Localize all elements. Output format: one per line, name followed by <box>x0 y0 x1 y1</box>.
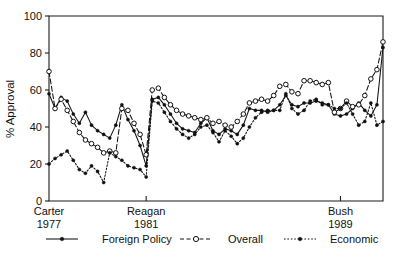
data-point-open <box>265 99 270 104</box>
data-point-filled <box>84 111 87 114</box>
data-point-filled <box>102 133 105 136</box>
data-point-filled <box>54 157 57 160</box>
data-point-open <box>174 108 179 113</box>
data-point-filled <box>199 125 202 128</box>
data-point-filled <box>114 124 117 127</box>
data-point-open <box>65 108 70 113</box>
data-point-filled <box>309 100 312 103</box>
data-point-filled <box>321 103 324 106</box>
data-point-filled <box>90 124 93 127</box>
data-point-open <box>132 121 137 126</box>
data-point-filled <box>47 162 50 165</box>
data-point-filled <box>78 168 81 171</box>
data-point-open <box>277 84 282 89</box>
data-point-open <box>150 88 155 93</box>
data-point-open <box>320 82 325 87</box>
data-point-filled <box>157 96 160 99</box>
data-point-filled <box>357 124 360 127</box>
data-point-filled <box>375 124 378 127</box>
series-line <box>49 42 383 155</box>
y-tick-label: 40 <box>30 121 42 133</box>
data-point-filled <box>217 133 220 136</box>
data-point-open <box>71 119 76 124</box>
data-point-filled <box>236 133 239 136</box>
data-point-open <box>126 108 131 113</box>
data-point-filled <box>296 105 299 108</box>
data-point-open <box>162 95 167 100</box>
data-point-filled <box>108 137 111 140</box>
data-point-filled <box>187 137 190 140</box>
data-point-filled <box>169 113 172 116</box>
data-point-filled <box>248 107 251 110</box>
data-point-open <box>120 106 125 111</box>
data-point-open <box>217 119 222 124</box>
data-point-filled <box>114 155 117 158</box>
x-era-label: Bush <box>328 205 353 217</box>
data-point-filled <box>163 103 166 106</box>
data-point-open <box>381 40 386 45</box>
data-point-filled <box>272 109 275 112</box>
data-point-open <box>89 141 94 146</box>
y-tick-label: 80 <box>30 47 42 59</box>
data-point-open <box>350 104 355 109</box>
y-tick-label: 20 <box>30 158 42 170</box>
data-point-open <box>47 69 52 74</box>
data-point-filled <box>369 101 372 104</box>
x-era-label: Carter <box>34 205 65 217</box>
data-point-filled <box>242 124 245 127</box>
data-point-filled <box>175 127 178 130</box>
data-point-open <box>290 90 295 95</box>
legend-label-overall: Overall <box>228 233 263 245</box>
data-point-filled <box>205 124 208 127</box>
y-axis-title: % Approval <box>4 80 16 138</box>
data-point-filled <box>132 166 135 169</box>
data-point-open <box>53 106 58 111</box>
data-point-filled <box>72 113 75 116</box>
data-point-filled <box>278 109 281 112</box>
data-point-filled <box>157 101 160 104</box>
y-tick-label: 100 <box>24 10 42 22</box>
data-point-filled <box>132 129 135 132</box>
data-point-filled <box>169 120 172 123</box>
data-point-filled <box>60 153 63 156</box>
data-point-filled <box>375 103 378 106</box>
data-point-filled <box>290 107 293 110</box>
data-point-filled <box>351 113 354 116</box>
data-point-open <box>241 112 246 117</box>
data-point-filled <box>90 164 93 167</box>
data-point-open <box>223 123 228 128</box>
data-point-filled <box>369 114 372 117</box>
x-era-year: 1981 <box>134 218 158 230</box>
x-era-label: Reagan <box>127 205 166 217</box>
data-point-filled <box>345 101 348 104</box>
data-point-filled <box>163 111 166 114</box>
data-point-open <box>362 93 367 98</box>
data-point-open <box>59 97 64 102</box>
x-era-year: 1989 <box>328 218 352 230</box>
data-point-filled <box>66 150 69 153</box>
data-point-filled <box>78 122 81 125</box>
data-point-open <box>375 67 380 72</box>
data-point-filled <box>296 113 299 116</box>
data-point-open <box>308 78 313 83</box>
data-point-filled <box>151 100 154 103</box>
data-point-filled <box>47 92 50 95</box>
data-point-open <box>229 125 234 130</box>
data-point-filled <box>254 109 257 112</box>
data-point-open <box>235 119 240 124</box>
series-overall <box>47 40 386 157</box>
series-line <box>49 94 383 183</box>
data-point-open <box>356 103 361 108</box>
data-point-open <box>247 101 252 106</box>
data-point-filled <box>266 109 269 112</box>
data-point-filled <box>126 118 129 121</box>
data-point-filled <box>224 129 227 132</box>
series-economic <box>47 92 384 184</box>
data-point-open <box>199 117 204 122</box>
data-point-open <box>192 115 197 120</box>
legend-swatch-marker <box>298 237 302 241</box>
data-point-open <box>83 138 88 143</box>
data-point-open <box>271 93 276 98</box>
data-point-open <box>95 145 100 150</box>
data-point-filled <box>242 137 245 140</box>
